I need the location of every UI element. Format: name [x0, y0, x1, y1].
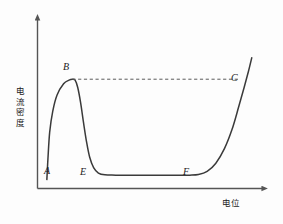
point-label-e: E — [80, 167, 86, 177]
point-label-b: B — [63, 62, 69, 72]
point-label-f: F — [183, 167, 189, 177]
y-axis-label: 电 流 密 度 — [9, 86, 31, 128]
point-label-a: A — [44, 166, 50, 176]
polarization-curve-figure: 电 流 密 度 电位 A B C E F — [0, 0, 283, 224]
x-axis-label: 电位 — [222, 198, 240, 209]
data-series-group — [47, 58, 252, 180]
point-label-c: C — [231, 73, 238, 83]
polarization-curve-path — [47, 58, 252, 180]
y-axis-label-char-3: 度 — [9, 118, 31, 129]
y-axis-label-char-0: 电 — [9, 86, 31, 97]
y-axis-label-char-1: 流 — [9, 97, 31, 108]
chart-canvas — [0, 0, 283, 224]
y-axis-label-char-2: 密 — [9, 107, 31, 118]
axes-group — [38, 20, 263, 189]
